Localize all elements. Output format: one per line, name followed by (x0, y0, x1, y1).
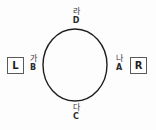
vertex-right-latin: A (116, 64, 122, 72)
vertex-right-korean: 나 (116, 55, 123, 63)
vertex-label-right: 나 A (110, 55, 128, 72)
circle-shape (42, 28, 108, 102)
diagram-canvas: 라 D 다 C 가 B 나 A L R (0, 0, 156, 130)
circle-outline (43, 29, 107, 101)
vertex-left-korean: 가 (30, 55, 37, 63)
vertex-bottom-latin: C (73, 113, 79, 121)
vertex-top-latin: D (73, 17, 80, 25)
vertex-top-korean: 라 (73, 8, 80, 16)
side-marker-left: L (7, 57, 24, 74)
vertex-left-latin: B (30, 64, 36, 72)
vertex-label-bottom: 다 C (62, 104, 90, 121)
side-marker-right: R (130, 57, 147, 74)
vertex-label-left: 가 B (24, 55, 42, 72)
vertex-bottom-korean: 다 (73, 104, 80, 112)
vertex-label-top: 라 D (62, 8, 90, 25)
